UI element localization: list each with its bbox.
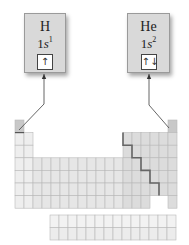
element-cell (24, 133, 33, 146)
element-cell (42, 170, 51, 183)
element-cell (105, 196, 114, 209)
element-cell (42, 183, 51, 196)
f-block-cell (158, 215, 167, 228)
element-cell (114, 196, 123, 209)
element-cell (60, 183, 69, 196)
f-block-cell (122, 228, 131, 241)
element-cell (141, 170, 150, 183)
element-cell (123, 145, 132, 158)
element-cell (15, 133, 24, 146)
arrowhead-icon (147, 74, 151, 79)
element-cell (132, 133, 141, 146)
element-cell (87, 158, 96, 171)
element-cell (87, 170, 96, 183)
element-cell (51, 183, 60, 196)
element-cell (15, 196, 24, 209)
f-block-cell (59, 228, 68, 241)
element-cell (33, 158, 42, 171)
element-cell (168, 158, 177, 171)
element-cell (141, 145, 150, 158)
f-block-cell (77, 215, 86, 228)
element-cell (150, 145, 159, 158)
element-cell (168, 133, 177, 146)
f-block-cell (59, 215, 68, 228)
element-cell (159, 133, 168, 146)
arrowhead-icon (42, 74, 46, 79)
f-block-cell (50, 215, 59, 228)
element-cell (159, 145, 168, 158)
f-block-cell (122, 215, 131, 228)
element-cell (51, 170, 60, 183)
element-cell (42, 196, 51, 209)
f-block-cell (86, 228, 95, 241)
element-cell (105, 170, 114, 183)
element-cell (24, 158, 33, 171)
element-cell (15, 170, 24, 183)
element-cell (150, 133, 159, 146)
element-cell (60, 158, 69, 171)
element-cell (24, 170, 33, 183)
element-cell (132, 170, 141, 183)
element-cell (15, 158, 24, 171)
element-cell (105, 158, 114, 171)
element-cell (15, 145, 24, 158)
element-cell (24, 145, 33, 158)
element-cell (96, 170, 105, 183)
element-cell (114, 183, 123, 196)
element-cell (150, 170, 159, 183)
periodic-table-graphic (0, 0, 189, 245)
f-block-cell (149, 228, 158, 241)
element-cell (24, 196, 33, 209)
element-cell (168, 196, 177, 209)
element-cell (33, 170, 42, 183)
element-cell (114, 158, 123, 171)
element-cell (123, 183, 132, 196)
element-cell (168, 170, 177, 183)
element-cell (159, 183, 168, 196)
element-cell (150, 183, 159, 196)
element-cell (78, 183, 87, 196)
element-cell (141, 196, 150, 209)
f-block-cell (158, 228, 167, 241)
element-cell (69, 170, 78, 183)
element-cell (51, 158, 60, 171)
f-block-cell (86, 215, 95, 228)
element-cell (132, 196, 141, 209)
element-cell (33, 183, 42, 196)
f-block-cell (113, 228, 122, 241)
element-cell (132, 183, 141, 196)
element-cell (78, 196, 87, 209)
element-cell (87, 183, 96, 196)
element-cell (159, 170, 168, 183)
element-cell (96, 158, 105, 171)
element-cell (123, 196, 132, 209)
element-cell (168, 183, 177, 196)
element-cell (168, 145, 177, 158)
element-cell (60, 196, 69, 209)
element-cell (78, 158, 87, 171)
element-cell (96, 183, 105, 196)
element-cell (159, 158, 168, 171)
f-block-cell (167, 215, 176, 228)
f-block-cell (77, 228, 86, 241)
element-cell (105, 183, 114, 196)
f-block-cell (149, 215, 158, 228)
helium-cell (168, 120, 177, 133)
f-block-cell (167, 228, 176, 241)
element-cell (51, 196, 60, 209)
f-block-cell (50, 228, 59, 241)
element-cell (42, 158, 51, 171)
element-cell (141, 133, 150, 146)
element-cell (78, 170, 87, 183)
f-block-cell (68, 215, 77, 228)
f-block-cell (140, 228, 149, 241)
element-cell (24, 183, 33, 196)
element-cell (33, 196, 42, 209)
helium-connector-arrow (149, 74, 169, 128)
element-cell (96, 196, 105, 209)
element-cell (114, 170, 123, 183)
f-block-cell (131, 228, 140, 241)
element-cell (87, 196, 96, 209)
element-cell (150, 158, 159, 171)
f-block-cell (131, 215, 140, 228)
